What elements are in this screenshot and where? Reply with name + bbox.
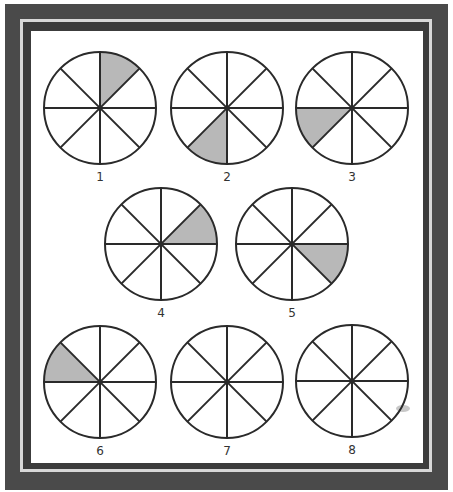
center-point — [350, 379, 355, 384]
circle-label: 8 — [348, 443, 356, 457]
center-point — [225, 106, 230, 111]
center-point — [98, 380, 103, 385]
circle-label: 5 — [288, 306, 296, 320]
circle-label: 7 — [223, 444, 231, 458]
fraction-circle-3: 3 — [296, 52, 408, 184]
fraction-circle-8: 8 — [296, 325, 408, 457]
circle-label: 6 — [96, 444, 104, 458]
center-point — [290, 242, 295, 247]
center-point — [350, 106, 355, 111]
shaded-sector — [296, 108, 352, 148]
fraction-circle-1: 1 — [44, 52, 156, 184]
fraction-circle-4: 4 — [105, 188, 217, 320]
center-point — [159, 242, 164, 247]
center-point — [225, 380, 230, 385]
fraction-circle-6: 6 — [44, 326, 156, 458]
fraction-circles-diagram: 12345678 — [0, 0, 453, 492]
circle-label: 4 — [157, 306, 165, 320]
fraction-circle-2: 2 — [171, 52, 283, 184]
center-point — [98, 106, 103, 111]
circle-label: 1 — [96, 170, 104, 184]
circle-label: 3 — [348, 170, 356, 184]
fraction-circle-7: 7 — [171, 326, 283, 458]
shaded-sector — [292, 244, 348, 284]
fraction-circle-5: 5 — [236, 188, 348, 320]
shaded-sector — [100, 52, 140, 108]
circle-label: 2 — [223, 170, 231, 184]
shaded-sector — [44, 342, 100, 382]
shaded-sector — [161, 204, 217, 244]
shaded-sector — [187, 108, 227, 164]
